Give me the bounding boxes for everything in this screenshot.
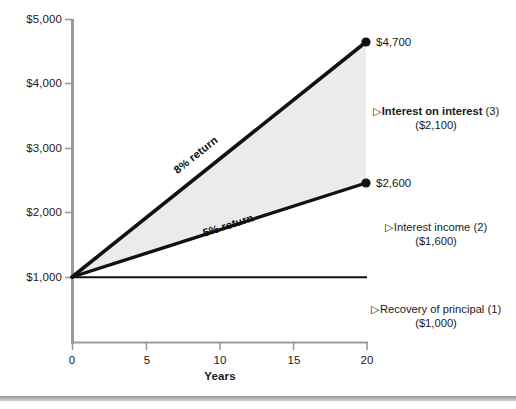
callout-row-primary: ▷Recovery of principal (1) (358, 302, 514, 316)
callout-row-primary: ▷Interest income (2) (358, 220, 514, 234)
callout-title-rest: (3) (482, 105, 499, 117)
callout-row-primary: ▷Interest on interest (3) (358, 104, 514, 118)
x-tick-label-0: 0 (52, 354, 92, 366)
bottom-divider-bar (0, 396, 516, 401)
triangle-marker-icon: ▷ (385, 221, 393, 233)
callout-recovery-of-principal: ▷Recovery of principal (1) ($1,000) (358, 302, 514, 330)
callout-title-bold: Interest on interest (382, 105, 483, 117)
callout-amount: ($2,100) (358, 118, 514, 132)
callout-interest-income: ▷Interest income (2) ($1,600) (358, 220, 514, 248)
x-axis-labels: 0 5 10 15 20 (0, 0, 516, 409)
endpoint-label-2600: $2,600 (376, 177, 411, 189)
callout-amount: ($1,000) (358, 316, 514, 330)
x-tick-label-10: 10 (200, 354, 240, 366)
x-tick-label-5: 5 (127, 354, 167, 366)
x-axis-title: Years (72, 370, 368, 382)
callout-amount: ($1,600) (358, 234, 514, 248)
callout-title-rest: Recovery of principal (1) (380, 303, 501, 315)
x-tick-label-15: 15 (274, 354, 314, 366)
callout-title-rest: Interest income (2) (394, 221, 487, 233)
callout-interest-on-interest: ▷Interest on interest (3) ($2,100) (358, 104, 514, 132)
x-tick-label-20: 20 (347, 354, 387, 366)
triangle-marker-icon: ▷ (373, 105, 381, 117)
endpoint-label-4700: $4,700 (376, 36, 411, 48)
triangle-marker-icon: ▷ (371, 303, 379, 315)
investment-growth-chart: $5,000 $4,000 $3,000 $2,000 $1,000 0 5 1… (0, 0, 516, 409)
